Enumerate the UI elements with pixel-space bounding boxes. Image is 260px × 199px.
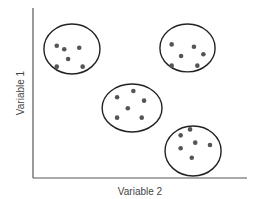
data-point: [193, 140, 198, 145]
data-point: [169, 63, 174, 68]
data-point: [169, 42, 174, 47]
data-point: [178, 133, 183, 138]
cluster-ellipse: [44, 24, 100, 74]
data-point: [208, 143, 213, 148]
data-point: [195, 63, 200, 68]
cluster-top-left: [44, 24, 100, 74]
cluster-middle: [102, 84, 162, 132]
data-point: [188, 127, 193, 132]
data-point: [126, 106, 131, 111]
data-point: [142, 98, 147, 103]
data-point: [62, 47, 67, 52]
data-point: [131, 89, 136, 94]
cluster-scatter-chart: Variable 2 Variable 1: [0, 0, 260, 199]
data-point: [54, 64, 59, 69]
y-axis-label: Variable 1: [15, 70, 26, 115]
data-point: [139, 115, 144, 120]
data-point: [189, 155, 194, 160]
data-point: [201, 52, 206, 57]
data-point: [54, 43, 59, 48]
data-point: [66, 57, 71, 62]
data-point: [77, 45, 82, 50]
data-point: [115, 115, 120, 120]
cluster-bottom-right: [165, 126, 221, 176]
data-point: [192, 44, 197, 49]
data-point: [80, 64, 85, 69]
cluster-ellipse: [165, 126, 221, 176]
data-point: [115, 95, 120, 100]
cluster-top-right: [160, 24, 215, 72]
clusters-layer: [44, 24, 221, 176]
data-point: [179, 54, 184, 59]
x-axis-label: Variable 2: [118, 186, 163, 197]
cluster-ellipse: [160, 24, 215, 72]
data-point: [178, 146, 183, 151]
